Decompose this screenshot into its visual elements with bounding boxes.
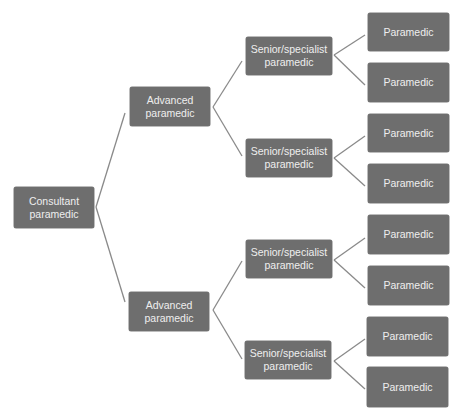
node-label-line2: paramedic bbox=[250, 360, 326, 373]
connector-senior1-to-paramedic-1 bbox=[334, 35, 365, 55]
connector-senior3-to-paramedic-6 bbox=[334, 260, 365, 288]
node-consultant-paramedic: Consultant paramedic bbox=[14, 187, 94, 228]
career-hierarchy-diagram: Consultant paramedic Advanced paramedic … bbox=[0, 0, 462, 415]
node-paramedic-8: Paramedic bbox=[367, 367, 448, 407]
node-label-line2: paramedic bbox=[29, 208, 79, 221]
node-senior-specialist-paramedic-3: Senior/specialist paramedic bbox=[246, 240, 332, 278]
node-advanced-paramedic-2: Advanced paramedic bbox=[129, 292, 209, 331]
node-label-line1: Advanced bbox=[145, 94, 194, 107]
node-label: Paramedic bbox=[382, 330, 432, 343]
node-paramedic-2: Paramedic bbox=[368, 63, 449, 102]
connector-root-to-advanced-1 bbox=[96, 113, 125, 207]
connector-advanced2-to-senior-3 bbox=[213, 261, 242, 310]
node-label-line2: paramedic bbox=[251, 56, 327, 69]
node-paramedic-7: Paramedic bbox=[367, 317, 448, 356]
node-paramedic-6: Paramedic bbox=[368, 266, 449, 305]
node-label: Paramedic bbox=[383, 76, 433, 89]
node-senior-specialist-paramedic-2: Senior/specialist paramedic bbox=[246, 139, 332, 177]
node-label-line2: paramedic bbox=[251, 158, 327, 171]
node-label: Paramedic bbox=[383, 177, 433, 190]
node-paramedic-5: Paramedic bbox=[368, 215, 449, 254]
connector-advanced1-to-senior-1 bbox=[213, 61, 242, 107]
connector-senior2-to-paramedic-3 bbox=[334, 136, 365, 158]
node-paramedic-4: Paramedic bbox=[368, 164, 449, 203]
connector-senior4-to-paramedic-8 bbox=[334, 361, 365, 389]
node-label: Paramedic bbox=[383, 26, 433, 39]
node-label-line2: paramedic bbox=[145, 107, 194, 120]
connector-senior4-to-paramedic-7 bbox=[334, 339, 365, 361]
node-label-line1: Senior/specialist bbox=[251, 145, 327, 158]
connector-senior1-to-paramedic-2 bbox=[334, 55, 365, 85]
node-label: Paramedic bbox=[382, 381, 432, 394]
node-label-line1: Advanced bbox=[144, 299, 193, 312]
node-paramedic-3: Paramedic bbox=[368, 114, 449, 152]
connector-root-to-advanced-2 bbox=[96, 207, 125, 302]
node-label-line1: Senior/specialist bbox=[251, 43, 327, 56]
node-label-line2: paramedic bbox=[144, 312, 193, 325]
node-paramedic-1: Paramedic bbox=[368, 13, 449, 51]
node-advanced-paramedic-1: Advanced paramedic bbox=[130, 87, 210, 126]
node-label: Paramedic bbox=[383, 127, 433, 140]
node-senior-specialist-paramedic-1: Senior/specialist paramedic bbox=[246, 37, 332, 75]
connector-advanced1-to-senior-2 bbox=[213, 107, 242, 156]
node-label-line1: Senior/specialist bbox=[250, 347, 326, 360]
connector-senior3-to-paramedic-5 bbox=[334, 238, 365, 260]
connector-senior2-to-paramedic-4 bbox=[334, 158, 365, 186]
node-label-line1: Senior/specialist bbox=[251, 246, 327, 259]
node-senior-specialist-paramedic-4: Senior/specialist paramedic bbox=[245, 341, 331, 379]
node-label: Paramedic bbox=[383, 228, 433, 241]
node-label-line2: paramedic bbox=[251, 259, 327, 272]
node-label-line1: Consultant bbox=[29, 195, 79, 208]
connector-advanced2-to-senior-4 bbox=[213, 310, 242, 359]
node-label: Paramedic bbox=[383, 279, 433, 292]
